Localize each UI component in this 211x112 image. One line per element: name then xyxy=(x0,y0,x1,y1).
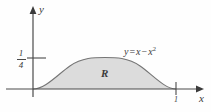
x-tick-label-one: 1 xyxy=(174,96,178,104)
fraction-denominator: 4 xyxy=(14,61,28,70)
equation-term1: x xyxy=(136,46,140,57)
region-label-r: R xyxy=(101,68,108,79)
fraction-numerator: 1 xyxy=(14,49,28,58)
parabola-figure xyxy=(0,0,211,112)
equation-equals: = xyxy=(128,46,136,57)
equation-term2-exponent: 2 xyxy=(153,45,156,52)
figure-container: y x R y=x−x2 1 1 4 xyxy=(0,0,211,112)
y-axis-label: y xyxy=(39,4,44,15)
y-tick-label-quarter: 1 4 xyxy=(14,49,28,70)
y-axis-arrow-icon xyxy=(30,6,37,14)
x-axis-label: x xyxy=(199,93,204,104)
curve-equation-label: y=x−x2 xyxy=(124,46,156,57)
